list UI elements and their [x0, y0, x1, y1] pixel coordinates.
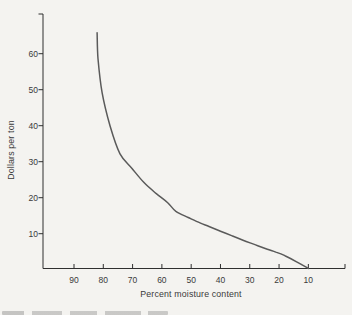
- y-axis-title: Dollars per ton: [6, 120, 16, 179]
- y-tick-label: 40: [29, 121, 39, 131]
- moisture-price-chart: 102030405060 908070605040302010 Percent …: [0, 0, 352, 315]
- x-tick-label: 90: [69, 275, 79, 285]
- y-tick-label: 10: [29, 229, 39, 239]
- x-axis-ticks: 908070605040302010: [69, 264, 313, 285]
- x-tick-label: 80: [99, 275, 109, 285]
- x-tick-label: 30: [245, 275, 255, 285]
- price-curve: [97, 33, 308, 269]
- x-tick-label: 20: [274, 275, 284, 285]
- y-tick-label: 20: [29, 193, 39, 203]
- x-tick-label: 40: [216, 275, 226, 285]
- x-tick-label: 70: [128, 275, 138, 285]
- x-axis-title: Percent moisture content: [140, 289, 242, 299]
- scanned-figure-page: 102030405060 908070605040302010 Percent …: [0, 0, 352, 315]
- y-tick-label: 60: [29, 49, 39, 59]
- x-tick-label: 10: [304, 275, 314, 285]
- y-tick-label: 50: [29, 85, 39, 95]
- x-tick-label: 50: [186, 275, 196, 285]
- y-axis-ticks: 102030405060: [29, 49, 43, 239]
- cropped-caption-remnant: [2, 311, 168, 315]
- x-tick-label: 60: [157, 275, 167, 285]
- y-tick-label: 30: [29, 157, 39, 167]
